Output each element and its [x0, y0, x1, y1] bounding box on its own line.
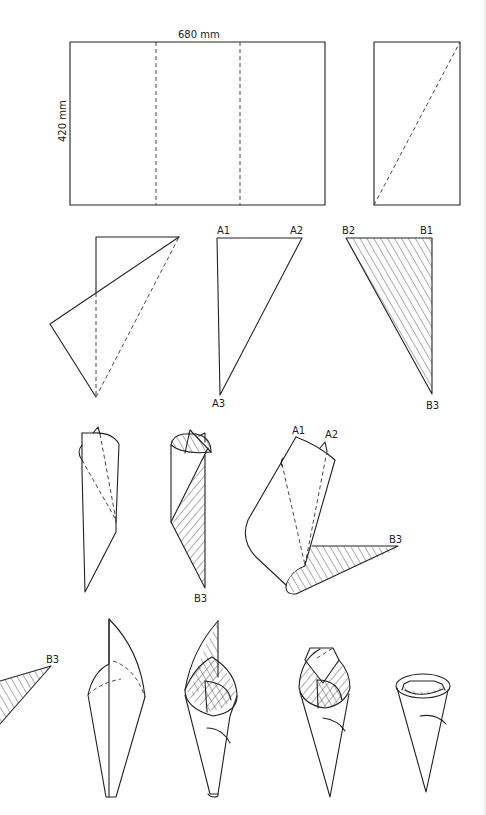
step-2-strip: [374, 42, 460, 205]
step-11-flap-inside: [185, 621, 237, 797]
step-13-finished-cone: [396, 674, 450, 792]
folding-diagram: 680 mm 420 mm A1 A2 A3 B2 B1 B3: [0, 0, 486, 815]
sheet-width-label: 680 mm: [178, 29, 220, 40]
label-b3: B3: [426, 400, 439, 411]
step-8-tail: A1 A2 B3: [244, 425, 403, 594]
label-b3-step8: B3: [389, 534, 402, 545]
step-7-wrapped-b: B3: [171, 430, 211, 604]
label-a1: A1: [217, 225, 230, 236]
step-3-folded: [50, 237, 179, 397]
label-a2-step8: A2: [325, 429, 338, 440]
label-a1-step8: A1: [292, 425, 305, 436]
step-1-sheet: 680 mm 420 mm: [57, 29, 325, 205]
label-b3-step9: B3: [46, 654, 59, 665]
step-4-triangle-a: A1 A2 A3: [212, 225, 303, 409]
step-6-rolled-a: [79, 427, 119, 592]
step-5-triangle-b: B2 B1 B3: [342, 225, 439, 411]
label-a3: A3: [212, 398, 225, 409]
sheet-height-label: 420 mm: [57, 100, 68, 142]
label-b3-step7: B3: [194, 593, 207, 604]
label-b2: B2: [342, 225, 355, 236]
step-12-flaps-tucked: [299, 648, 350, 797]
label-b1: B1: [420, 225, 433, 236]
label-a2: A2: [290, 225, 303, 236]
step-10-upright-flap: [88, 619, 145, 797]
step-9-tail-edge: B3: [0, 654, 59, 724]
